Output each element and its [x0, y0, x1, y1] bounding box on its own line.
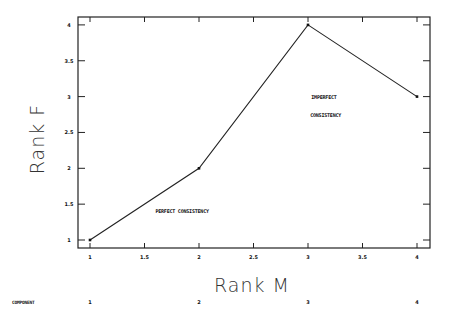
annotation-text: IMPERFECT	[311, 94, 336, 100]
y-axis-title: Rank F	[26, 104, 48, 174]
x-tick-label: 3	[306, 254, 310, 260]
data-point	[89, 239, 92, 242]
x-tick-label: 4	[415, 254, 419, 260]
component-values: 1234	[88, 299, 419, 305]
y-tick-label: 4	[67, 22, 71, 28]
y-axis-ticks	[78, 25, 430, 240]
annotation-text: CONSISTENCY	[310, 112, 341, 118]
y-tick-label: 2.5	[65, 129, 74, 135]
y-tick-label: 1.5	[65, 201, 74, 207]
x-axis-ticks	[90, 17, 417, 248]
y-tick-label: 3.5	[65, 58, 74, 64]
y-tick-label: 3	[67, 94, 71, 100]
x-tick-label: 1.5	[140, 254, 149, 260]
data-point	[416, 95, 419, 98]
x-axis-tick-labels: 11.522.533.54	[88, 254, 419, 260]
component-value: 1	[88, 299, 92, 305]
y-axis-tick-labels: 11.522.533.54	[65, 22, 74, 243]
component-value: 2	[197, 299, 201, 305]
data-line	[90, 25, 417, 240]
x-tick-label: 2	[197, 254, 201, 260]
y-tick-label: 1	[67, 237, 71, 243]
line-chart: 11.522.533.54 11.522.533.54 PERFECT CONS…	[0, 0, 449, 322]
data-point	[198, 167, 201, 170]
component-label: COMPONENT	[12, 300, 35, 305]
component-value: 3	[306, 299, 310, 305]
annotation-text: PERFECT CONSISTENCY	[155, 208, 209, 214]
x-tick-label: 2.5	[249, 254, 258, 260]
x-axis-title: Rank M	[214, 274, 290, 296]
component-value: 4	[415, 299, 419, 305]
x-tick-label: 1	[88, 254, 92, 260]
annotations: PERFECT CONSISTENCYIMPERFECTCONSISTENCY	[155, 94, 341, 214]
y-tick-label: 2	[67, 165, 71, 171]
x-tick-label: 3.5	[358, 254, 367, 260]
data-point	[307, 24, 310, 27]
